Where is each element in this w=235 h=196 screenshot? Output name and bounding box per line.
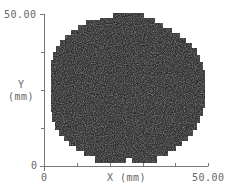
y-max-label: 50.00 xyxy=(4,9,37,20)
wafer-disc xyxy=(51,13,205,163)
y-axis xyxy=(40,14,45,167)
x-min-label: 0 xyxy=(41,172,48,183)
y-min-label: 0 xyxy=(31,160,38,171)
y-axis-label-2: (mm) xyxy=(8,91,34,102)
x-axis-label: X (mm) xyxy=(107,172,146,183)
x-axis xyxy=(44,163,209,171)
x-max-label: 50.00 xyxy=(192,172,225,183)
y-axis-label-1: Y xyxy=(18,79,25,90)
